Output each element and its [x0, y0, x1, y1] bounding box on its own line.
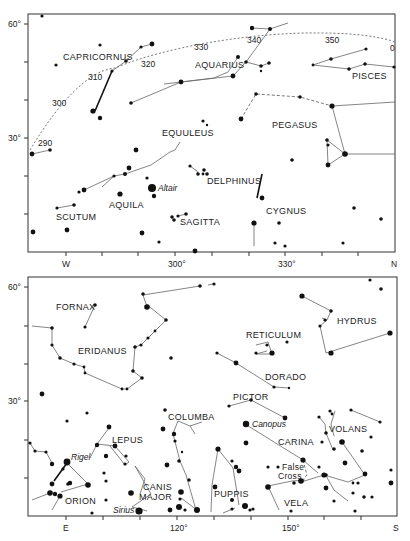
bottom-x-label-e: E — [63, 523, 69, 533]
top-star-chart: 60° 30° W 300° 330° N 290 300 310 320 33… — [8, 14, 397, 269]
label-eridanus: ERIDANUS — [78, 346, 127, 356]
label-puppis: PUPPIS — [214, 489, 249, 499]
top-x-label-330: 330° — [278, 259, 296, 269]
label-canis-major-line2: MAJOR — [139, 492, 172, 502]
label-rigel: Rigel — [71, 452, 91, 462]
label-cygnus: CYGNUS — [266, 206, 306, 216]
label-delphinus: DELPHINUS — [207, 176, 261, 186]
ecliptic-label-330: 330 — [194, 42, 208, 52]
label-canis-major-line1: CANIS — [143, 482, 172, 492]
label-aquarius: AQUARIUS — [195, 60, 244, 70]
bottom-y-label-60: 60° — [8, 282, 21, 292]
label-equuleus: EQUULEUS — [162, 128, 214, 138]
ecliptic-label-0: 0 — [390, 43, 395, 53]
label-columba: COLUMBA — [168, 412, 215, 422]
star-charts: 60° 30° W 300° 330° N 290 300 310 320 33… — [0, 0, 410, 541]
label-pisces: PISCES — [352, 71, 387, 81]
label-capricornus: CAPRICORNUS — [63, 52, 133, 62]
label-canopus: Canopus — [252, 419, 287, 429]
label-sirius: Sirius — [113, 505, 135, 515]
ecliptic-label-290: 290 — [38, 138, 52, 148]
ecliptic-label-310: 310 — [88, 72, 102, 82]
label-sagitta: SAGITTA — [180, 217, 220, 227]
bottom-x-label-120: 120° — [170, 523, 188, 533]
label-altair: Altair — [157, 183, 179, 193]
label-orion: ORION — [65, 496, 96, 506]
bottom-x-label-150: 150° — [282, 523, 300, 533]
label-pegasus: PEGASUS — [272, 120, 318, 130]
top-x-label-300: 300° — [168, 259, 186, 269]
bottom-star-chart: 60° 30° E 120° 150° S — [8, 277, 399, 533]
label-hydrus: HYDRUS — [337, 316, 377, 326]
top-x-label-n: N — [391, 259, 397, 269]
label-false-cross-line2: Cross — [278, 471, 302, 481]
ecliptic-label-300: 300 — [52, 98, 66, 108]
label-scutum: SCUTUM — [56, 212, 96, 222]
label-pictor: PICTOR — [233, 392, 269, 402]
ecliptic-label-350: 350 — [325, 35, 339, 45]
label-volans: VOLANS — [329, 424, 367, 434]
label-dorado: DORADO — [265, 372, 306, 382]
label-lepus: LEPUS — [112, 435, 143, 445]
label-aquila: AQUILA — [109, 200, 144, 210]
label-carina: CARINA — [278, 437, 314, 447]
bottom-y-label-30: 30° — [8, 396, 21, 406]
label-vela: VELA — [284, 498, 308, 508]
ecliptic-label-320: 320 — [141, 59, 155, 69]
top-y-label-30: 30° — [8, 133, 21, 143]
top-y-label-60: 60° — [8, 19, 21, 29]
label-fornax: FORNAX — [56, 302, 95, 312]
top-x-label-w: W — [62, 259, 70, 269]
bottom-x-label-s: S — [393, 523, 399, 533]
label-reticulum: RETICULUM — [246, 330, 301, 340]
